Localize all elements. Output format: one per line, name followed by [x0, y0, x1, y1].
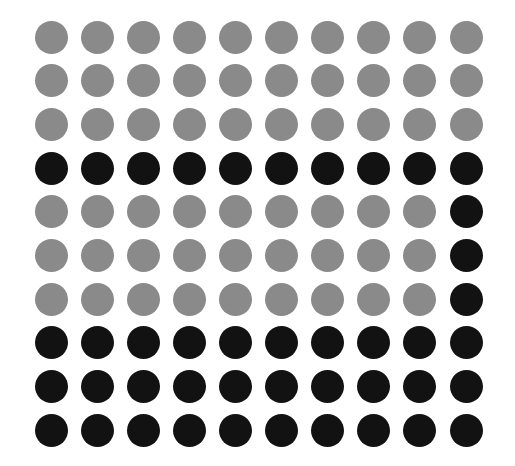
gray-dot: [357, 283, 390, 316]
gray-dot: [219, 64, 252, 97]
black-dot: [127, 414, 160, 447]
black-dot: [403, 414, 436, 447]
black-dot: [311, 152, 344, 185]
gray-dot: [311, 239, 344, 272]
gray-dot: [219, 283, 252, 316]
gray-dot: [450, 21, 483, 54]
gray-dot: [265, 108, 298, 141]
black-dot: [127, 326, 160, 359]
black-dot: [219, 370, 252, 403]
gray-dot: [35, 283, 68, 316]
gray-dot: [311, 64, 344, 97]
gray-dot: [311, 283, 344, 316]
gray-dot: [81, 195, 114, 228]
black-dot: [450, 326, 483, 359]
gray-dot: [265, 239, 298, 272]
black-dot: [450, 152, 483, 185]
gray-dot: [81, 21, 114, 54]
black-dot: [311, 370, 344, 403]
black-dot: [219, 326, 252, 359]
black-dot: [219, 152, 252, 185]
gray-dot: [127, 64, 160, 97]
gray-dot: [35, 21, 68, 54]
gray-dot: [173, 108, 206, 141]
gray-dot: [81, 283, 114, 316]
black-dot: [403, 370, 436, 403]
gray-dot: [81, 108, 114, 141]
gray-dot: [127, 195, 160, 228]
black-dot: [81, 326, 114, 359]
black-dot: [35, 326, 68, 359]
gray-dot: [403, 283, 436, 316]
black-dot: [81, 414, 114, 447]
gray-dot: [311, 21, 344, 54]
gray-dot: [219, 239, 252, 272]
gray-dot: [265, 283, 298, 316]
black-dot: [403, 152, 436, 185]
black-dot: [81, 152, 114, 185]
black-dot: [173, 326, 206, 359]
gray-dot: [219, 108, 252, 141]
black-dot: [219, 414, 252, 447]
gray-dot: [311, 108, 344, 141]
black-dot: [35, 152, 68, 185]
gray-dot: [173, 64, 206, 97]
gray-dot: [357, 195, 390, 228]
gray-dot: [403, 239, 436, 272]
black-dot: [127, 152, 160, 185]
gray-dot: [81, 64, 114, 97]
gray-dot: [35, 239, 68, 272]
gray-dot: [450, 108, 483, 141]
black-dot: [357, 152, 390, 185]
black-dot: [127, 370, 160, 403]
black-dot: [311, 414, 344, 447]
gray-dot: [127, 283, 160, 316]
gray-dot: [219, 21, 252, 54]
black-dot: [311, 326, 344, 359]
gray-dot: [173, 239, 206, 272]
gray-dot: [127, 21, 160, 54]
black-dot: [265, 370, 298, 403]
gray-dot: [35, 195, 68, 228]
gray-dot: [127, 239, 160, 272]
black-dot: [403, 326, 436, 359]
black-dot: [357, 414, 390, 447]
black-dot: [265, 326, 298, 359]
gray-dot: [173, 283, 206, 316]
gray-dot: [265, 21, 298, 54]
gray-dot: [357, 108, 390, 141]
gray-dot: [127, 108, 160, 141]
black-dot: [450, 239, 483, 272]
gray-dot: [450, 64, 483, 97]
black-dot: [81, 370, 114, 403]
black-dot: [173, 414, 206, 447]
gray-dot: [265, 64, 298, 97]
gray-dot: [35, 64, 68, 97]
gray-dot: [403, 21, 436, 54]
black-dot: [450, 414, 483, 447]
gray-dot: [403, 195, 436, 228]
black-dot: [450, 370, 483, 403]
black-dot: [450, 283, 483, 316]
black-dot: [357, 326, 390, 359]
black-dot: [35, 414, 68, 447]
gray-dot: [219, 195, 252, 228]
black-dot: [450, 195, 483, 228]
gray-dot: [173, 195, 206, 228]
gray-dot: [403, 108, 436, 141]
black-dot: [357, 370, 390, 403]
black-dot: [173, 370, 206, 403]
black-dot: [173, 152, 206, 185]
gray-dot: [265, 195, 298, 228]
gray-dot: [35, 108, 68, 141]
gray-dot: [357, 21, 390, 54]
dot-grid-chart: [0, 0, 515, 466]
gray-dot: [403, 64, 436, 97]
gray-dot: [311, 195, 344, 228]
gray-dot: [357, 239, 390, 272]
black-dot: [265, 414, 298, 447]
black-dot: [35, 370, 68, 403]
black-dot: [265, 152, 298, 185]
gray-dot: [173, 21, 206, 54]
gray-dot: [357, 64, 390, 97]
